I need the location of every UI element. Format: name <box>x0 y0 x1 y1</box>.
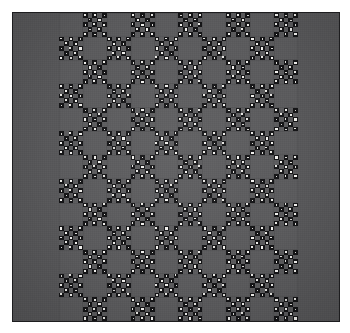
quilt-block-plain <box>155 60 179 84</box>
quilt-block-plain <box>178 274 202 298</box>
quilt-block-plain <box>226 179 250 203</box>
quilt-block-star <box>131 13 155 37</box>
quilt-block-plain <box>59 203 83 227</box>
quilt-block-star <box>155 84 179 108</box>
quilt-block-plain <box>226 226 250 250</box>
quilt-block-plain <box>226 37 250 61</box>
quilt-block-plain <box>202 108 226 132</box>
quilt-block-star <box>250 226 274 250</box>
quilt-block-plain <box>155 250 179 274</box>
quilt-block-star <box>131 108 155 132</box>
quilt-block-plain <box>274 179 298 203</box>
quilt-block-plain <box>226 274 250 298</box>
quilt-block-plain <box>250 203 274 227</box>
quilt-block-star <box>155 131 179 155</box>
quilt-block-star <box>226 60 250 84</box>
quilt-block-star <box>107 131 131 155</box>
quilt-block-plain <box>202 203 226 227</box>
quilt-block-plain <box>59 155 83 179</box>
quilt-block-star <box>59 131 83 155</box>
quilt-block-plain <box>83 131 107 155</box>
quilt-left-border <box>13 13 59 321</box>
quilt-block-star <box>155 179 179 203</box>
quilt-block-star <box>83 60 107 84</box>
quilt-block-star <box>131 155 155 179</box>
quilt-block-star <box>107 274 131 298</box>
quilt-block-plain <box>274 37 298 61</box>
quilt-block-plain <box>107 13 131 37</box>
quilt-block-star <box>155 37 179 61</box>
quilt-block-star <box>274 203 298 227</box>
quilt-block-plain <box>155 203 179 227</box>
quilt-block-star <box>131 250 155 274</box>
quilt-block-star <box>83 203 107 227</box>
quilt-block-star <box>274 155 298 179</box>
quilt-block-star <box>59 274 83 298</box>
quilt-block-plain <box>107 155 131 179</box>
quilt-block-plain <box>202 250 226 274</box>
quilt-block-star <box>274 297 298 321</box>
quilt-block-plain <box>250 60 274 84</box>
quilt-block-star <box>226 155 250 179</box>
quilt-block-plain <box>59 250 83 274</box>
quilt-block-star <box>131 203 155 227</box>
quilt-block-star <box>202 274 226 298</box>
quilt-block-star <box>131 60 155 84</box>
quilt-textile <box>12 12 340 322</box>
quilt-block-star <box>274 108 298 132</box>
quilt-block-star <box>83 155 107 179</box>
quilt-block-plain <box>155 108 179 132</box>
quilt-block-plain <box>131 131 155 155</box>
quilt-block-star <box>59 179 83 203</box>
quilt-block-star <box>250 37 274 61</box>
quilt-block-star <box>178 297 202 321</box>
quilt-pieced-panel <box>59 13 298 321</box>
quilt-block-star <box>178 155 202 179</box>
quilt-block-plain <box>83 37 107 61</box>
quilt-block-star <box>226 250 250 274</box>
quilt-block-plain <box>226 131 250 155</box>
quilt-block-plain <box>83 274 107 298</box>
quilt-block-star <box>83 250 107 274</box>
quilt-block-star <box>202 131 226 155</box>
quilt-block-plain <box>131 274 155 298</box>
quilt-block-star <box>83 13 107 37</box>
quilt-block-plain <box>178 131 202 155</box>
quilt-block-star <box>59 37 83 61</box>
quilt-block-star <box>250 274 274 298</box>
quilt-block-star <box>178 203 202 227</box>
quilt-block-plain <box>178 226 202 250</box>
quilt-block-star <box>107 226 131 250</box>
quilt-block-star <box>107 37 131 61</box>
quilt-block-plain <box>202 297 226 321</box>
quilt-block-star <box>274 13 298 37</box>
quilt-block-star <box>202 179 226 203</box>
quilt-block-plain <box>131 226 155 250</box>
quilt-block-plain <box>59 60 83 84</box>
quilt-block-plain <box>107 297 131 321</box>
quilt-block-plain <box>59 108 83 132</box>
quilt-block-star <box>202 84 226 108</box>
quilt-block-plain <box>155 155 179 179</box>
quilt-block-star <box>155 226 179 250</box>
quilt-block-plain <box>250 250 274 274</box>
quilt-block-plain <box>107 60 131 84</box>
quilt-block-plain <box>250 13 274 37</box>
quilt-block-plain <box>250 155 274 179</box>
quilt-block-plain <box>83 226 107 250</box>
quilt-block-plain <box>178 84 202 108</box>
patch-print-dot <box>293 316 298 321</box>
quilt-block-plain <box>250 108 274 132</box>
quilt-block-star <box>178 13 202 37</box>
quilt-block-star <box>274 60 298 84</box>
quilt-block-plain <box>178 37 202 61</box>
quilt-block-plain <box>131 37 155 61</box>
quilt-block-plain <box>107 250 131 274</box>
quilt-block-plain <box>131 84 155 108</box>
quilt-block-plain <box>155 13 179 37</box>
quilt-block-plain <box>178 179 202 203</box>
quilt-block-plain <box>274 226 298 250</box>
quilt-block-plain <box>226 84 250 108</box>
quilt-block-star <box>226 297 250 321</box>
quilt-block-plain <box>155 297 179 321</box>
